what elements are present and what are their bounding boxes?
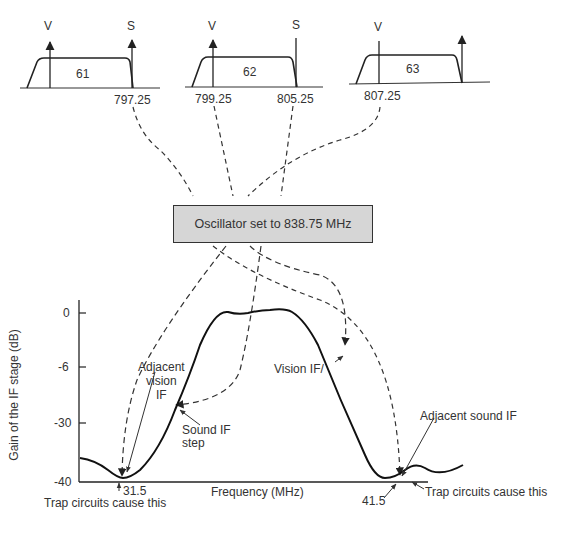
y-axis-label: Gain of the IF stage (dB) — [7, 329, 21, 460]
sound-if-step-annotation: Sound IF step — [182, 424, 231, 450]
trap-circuits-left-annotation: Trap circuits cause this — [44, 497, 166, 509]
channel-62-vision-freq: 799.25 — [195, 93, 232, 105]
mapping-lines-upper — [133, 106, 380, 196]
channel-63-spectrum — [349, 36, 490, 84]
y-tick-minus6: -6 — [58, 361, 69, 373]
channel-62-sound-freq: 805.25 — [277, 93, 314, 105]
x-axis-label: Frequency (MHz) — [211, 486, 304, 498]
channel-61-number: 61 — [76, 68, 89, 80]
adjacent-vision-if-annotation: Adjacent vision IF — [138, 360, 185, 402]
channel-61-spectrum — [20, 40, 160, 88]
y-tick-0: 0 — [63, 307, 70, 319]
channel-62-vision-label: V — [208, 20, 216, 32]
y-tick-minus30: -30 — [54, 417, 71, 429]
channel-62-number: 62 — [243, 66, 256, 78]
trap-circuits-right-annotation: Trap circuits cause this — [425, 486, 547, 498]
channel-62-sound-label: S — [292, 19, 300, 31]
channel-61-sound-label: S — [127, 20, 135, 32]
channel-63-vision-freq: 807.25 — [364, 90, 401, 102]
adjacent-sound-if-annotation: Adjacent sound IF — [420, 410, 517, 422]
vision-if-annotation: Vision IF/ — [274, 363, 324, 375]
channel-62-spectrum — [185, 38, 323, 87]
y-tick-minus40: -40 — [54, 476, 71, 488]
oscillator-box: Oscillator set to 838.75 MHz — [173, 205, 373, 243]
x-marker-41-5: 41.5 — [362, 495, 385, 507]
oscillator-label: Oscillator set to 838.75 MHz — [194, 217, 351, 231]
channel-61-vision-label: V — [44, 20, 52, 32]
channel-63-number: 63 — [406, 63, 419, 75]
channel-61-sound-freq: 797.25 — [114, 94, 151, 106]
channel-63-vision-label: V — [374, 21, 382, 33]
